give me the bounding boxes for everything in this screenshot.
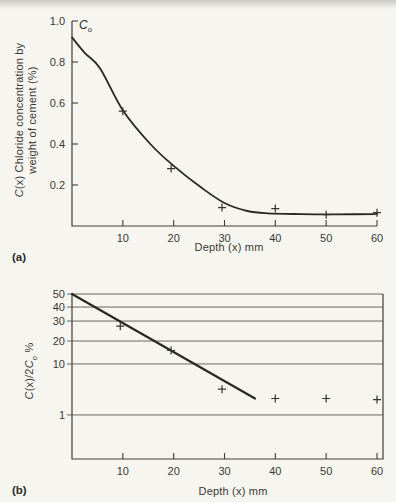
data-point-marker bbox=[218, 385, 226, 393]
y-tick-label: 0.8 bbox=[50, 56, 65, 68]
x-tick-label: 10 bbox=[117, 465, 129, 477]
y-tick-label: 1.0 bbox=[50, 15, 65, 27]
y-tick-label: 50 bbox=[53, 288, 65, 300]
y-tick-label: 0.6 bbox=[50, 97, 65, 109]
axes-a bbox=[72, 21, 377, 226]
fit-line bbox=[72, 294, 255, 399]
y-tick-label: 20 bbox=[53, 335, 65, 347]
x-tick-label: 40 bbox=[269, 232, 281, 244]
x-tick-label: 60 bbox=[371, 465, 383, 477]
x-tick-label: 30 bbox=[218, 465, 230, 477]
chart-b-y-axis-title: C(x)/2Co % bbox=[23, 343, 38, 400]
x-tick-label: 50 bbox=[320, 465, 332, 477]
data-point-marker bbox=[322, 395, 330, 403]
data-point-marker bbox=[322, 211, 330, 219]
chart-b-canvas: 50403020101102030405060 bbox=[0, 262, 396, 502]
y-tick-label: 0.4 bbox=[50, 138, 65, 150]
chart-a-canvas: 0.20.40.60.81.0102030405060 bbox=[0, 0, 396, 262]
figure-page: 0.20.40.60.81.0102030405060 504030201011… bbox=[0, 0, 396, 502]
y-tick-label: 40 bbox=[53, 301, 65, 313]
x-tick-label: 40 bbox=[269, 465, 281, 477]
panel-b-label: (b) bbox=[12, 484, 27, 496]
y-tick-label: 30 bbox=[53, 315, 65, 327]
chart-b-x-axis-title: Depth (x) mm bbox=[198, 485, 267, 497]
y-tick-label: 0.2 bbox=[50, 179, 65, 191]
y-tick-label: 1 bbox=[59, 409, 65, 421]
data-point-marker bbox=[271, 205, 279, 213]
data-point-marker bbox=[218, 204, 226, 212]
panel-a-label: (a) bbox=[12, 251, 26, 263]
c0-annotation: Co bbox=[79, 18, 92, 34]
y-axis-title-line1: C(x) Chloride concentration by bbox=[13, 43, 26, 198]
data-point-marker bbox=[271, 395, 279, 403]
concentration-curve bbox=[72, 37, 377, 214]
x-tick-label: 50 bbox=[320, 232, 332, 244]
axes-b bbox=[72, 294, 383, 459]
chart-a-y-axis-title: C(x) Chloride concentration by weight of… bbox=[13, 43, 39, 198]
x-tick-label: 20 bbox=[168, 232, 180, 244]
x-tick-label: 20 bbox=[168, 465, 180, 477]
data-point-marker bbox=[373, 209, 381, 217]
data-point-marker bbox=[373, 396, 381, 404]
x-tick-label: 10 bbox=[117, 232, 129, 244]
chart-a-x-axis-title: Depth (x) mm bbox=[194, 241, 263, 253]
y-tick-label: 10 bbox=[53, 358, 65, 370]
x-tick-label: 60 bbox=[371, 232, 383, 244]
y-axis-title-line2: weight of cement (%) bbox=[26, 43, 39, 198]
